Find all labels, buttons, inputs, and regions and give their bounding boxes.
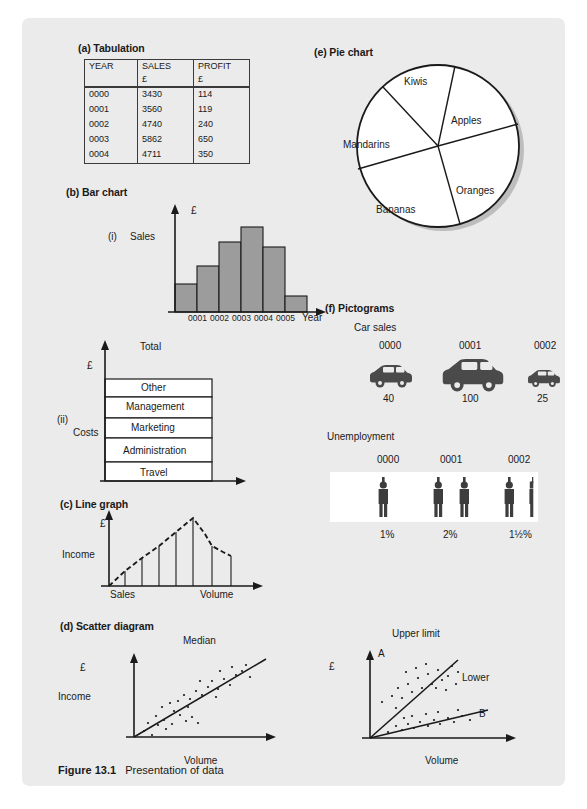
y-axis-arrow-icon bbox=[105, 510, 113, 520]
unemp-value-0000: 1% bbox=[380, 529, 394, 540]
unemployment-title: Unemployment bbox=[327, 431, 394, 442]
bar-tick-0001: 0001 bbox=[188, 313, 207, 323]
scatter-left-y-label: Income bbox=[58, 691, 91, 702]
car-icon-0000 bbox=[366, 360, 416, 390]
table-units-row: £ £ bbox=[85, 74, 250, 87]
bar-0002 bbox=[219, 242, 241, 312]
unit-profit: £ bbox=[194, 74, 250, 87]
y-axis-arrow-icon bbox=[366, 650, 374, 660]
stacked-label-travel: Travel bbox=[140, 467, 167, 478]
bar-chart-roman: (i) bbox=[108, 231, 117, 242]
line-graph-svg bbox=[95, 508, 285, 598]
section-f-label: (f) Pictograms bbox=[325, 302, 394, 314]
line-graph-y-label: Income bbox=[62, 549, 95, 560]
cell-profit: 350 bbox=[194, 148, 250, 164]
line-graph-trend bbox=[109, 518, 231, 586]
table-row: 0004 4711 350 bbox=[85, 148, 250, 164]
bar-tick-0002: 0002 bbox=[210, 313, 229, 323]
scatter-right-line-a bbox=[370, 660, 458, 738]
bar-0001 bbox=[197, 266, 219, 312]
bar-0000 bbox=[175, 284, 197, 312]
car-value-0001: 100 bbox=[462, 393, 479, 404]
car-icon-0001 bbox=[437, 352, 509, 395]
figure-caption-text: Presentation of data bbox=[125, 764, 223, 776]
header-sales: SALES bbox=[138, 60, 194, 75]
car-value-0000: 40 bbox=[383, 393, 394, 404]
cell-year: 0004 bbox=[85, 148, 138, 164]
scatter-right-upper-label: Upper limit bbox=[392, 628, 440, 639]
bar-0003 bbox=[241, 227, 263, 312]
cell-profit: 650 bbox=[194, 133, 250, 148]
stacked-label-management: Management bbox=[126, 401, 184, 412]
stacked-y-axis-label: £ bbox=[87, 360, 93, 371]
cell-year: 0003 bbox=[85, 133, 138, 148]
stacked-label-other: Other bbox=[141, 382, 166, 393]
table-row: 0003 5862 650 bbox=[85, 133, 250, 148]
section-d-label: (d) Scatter diagram bbox=[60, 620, 154, 632]
bar-0004 bbox=[263, 247, 285, 312]
stacked-side-label: Costs bbox=[73, 427, 99, 438]
car-icon-0002 bbox=[525, 366, 563, 389]
table-row: 0002 4740 240 bbox=[85, 118, 250, 133]
header-year: YEAR bbox=[85, 60, 138, 75]
table-row: 0000 3430 114 bbox=[85, 87, 250, 103]
bleed-through-text bbox=[300, 22, 303, 36]
stacked-label-administration: Administration bbox=[123, 445, 186, 456]
line-graph-x-right-label: Volume bbox=[200, 589, 233, 600]
figure-page: (a) Tabulation YEAR SALES PROFIT £ £ 000… bbox=[0, 0, 587, 809]
scatter-left-svg bbox=[100, 645, 300, 745]
scatter-right-svg bbox=[340, 640, 540, 745]
scatter-left-y-axis-label: £ bbox=[80, 662, 86, 673]
car-sales-title: Car sales bbox=[354, 322, 396, 333]
scatter-right-x-axis-label: Volume bbox=[425, 755, 458, 766]
x-axis-arrow-icon bbox=[506, 734, 516, 742]
header-profit: PROFIT bbox=[194, 60, 250, 75]
bar-tick-0004: 0004 bbox=[254, 313, 273, 323]
stacked-chart-svg bbox=[100, 336, 310, 491]
cell-profit: 114 bbox=[194, 87, 250, 103]
unemp-value-0001: 2% bbox=[443, 529, 457, 540]
figure-caption: Figure 13.1 Presentation of data bbox=[58, 764, 224, 776]
cell-year: 0000 bbox=[85, 87, 138, 103]
unit-year bbox=[85, 74, 138, 87]
pie-label-oranges: Oranges bbox=[456, 185, 494, 196]
line-graph-x-left-label: Sales bbox=[110, 589, 135, 600]
unemp-value-0002: 1½% bbox=[509, 529, 532, 540]
pie-label-mandarins: Mandarins bbox=[343, 139, 390, 150]
scatter-right-line-b bbox=[370, 710, 488, 738]
unit-sales: £ bbox=[138, 74, 194, 87]
table-header-row: YEAR SALES PROFIT bbox=[85, 60, 250, 75]
bar-chart-x-axis-label: Year bbox=[302, 312, 322, 323]
unemp-year-0000: 0000 bbox=[377, 454, 399, 465]
car-year-0002: 0002 bbox=[534, 340, 556, 351]
cell-sales: 3560 bbox=[138, 103, 194, 118]
y-axis-arrow-icon bbox=[130, 653, 138, 663]
section-b-label: (b) Bar chart bbox=[66, 186, 127, 198]
bar-chart-svg bbox=[150, 200, 330, 325]
bar-0005 bbox=[285, 296, 307, 312]
stacked-label-marketing: Marketing bbox=[131, 422, 175, 433]
unemp-year-0001: 0001 bbox=[440, 454, 462, 465]
pie-label-apples: Apples bbox=[451, 115, 482, 126]
x-axis-arrow-icon bbox=[266, 733, 276, 741]
bar-tick-0003: 0003 bbox=[232, 313, 251, 323]
bar-tick-0005: 0005 bbox=[276, 313, 295, 323]
table-row: 0001 3560 119 bbox=[85, 103, 250, 118]
cell-year: 0001 bbox=[85, 103, 138, 118]
scatter-right-y-axis-label: £ bbox=[329, 661, 335, 672]
car-year-0001: 0001 bbox=[459, 340, 481, 351]
section-a-label: (a) Tabulation bbox=[78, 42, 145, 54]
cell-sales: 5862 bbox=[138, 133, 194, 148]
cell-sales: 3430 bbox=[138, 87, 194, 103]
unemployment-pictogram-svg bbox=[330, 472, 538, 522]
stacked-roman: (ii) bbox=[57, 414, 68, 425]
cell-profit: 119 bbox=[194, 103, 250, 118]
x-axis-arrow-icon bbox=[236, 477, 246, 485]
tabulation-table: YEAR SALES PROFIT £ £ 0000 3430 114 0001… bbox=[84, 59, 250, 164]
cell-sales: 4740 bbox=[138, 118, 194, 133]
car-value-0002: 25 bbox=[537, 393, 548, 404]
cell-sales: 4711 bbox=[138, 148, 194, 164]
car-year-0000: 0000 bbox=[379, 340, 401, 351]
x-axis-arrow-icon bbox=[253, 582, 263, 590]
pie-label-kiwis: Kiwis bbox=[404, 76, 427, 87]
